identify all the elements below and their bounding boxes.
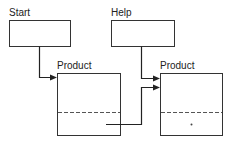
edge-help-to-product: [142, 47, 157, 79]
product-left-box[interactable]: [58, 74, 121, 136]
start-box[interactable]: [10, 21, 71, 47]
start-label: Start: [9, 7, 30, 18]
product-right-label: Product: [160, 60, 195, 71]
arrowhead-product-to-product: [153, 85, 160, 91]
diagram-canvas: Start Help Product Product: [0, 0, 235, 142]
help-box[interactable]: [112, 21, 175, 47]
help-label: Help: [111, 7, 132, 18]
product-right-marker: [191, 124, 193, 126]
edge-start-to-product: [40, 47, 54, 78]
product-right-box[interactable]: [161, 74, 223, 136]
arrowhead-start-to-product: [50, 75, 57, 81]
product-left-label: Product: [57, 60, 92, 71]
arrowhead-help-to-product: [153, 76, 160, 82]
